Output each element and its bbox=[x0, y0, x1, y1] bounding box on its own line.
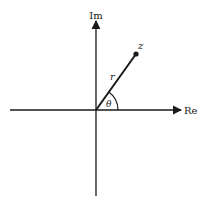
complex-plane-diagram: Im Re z r θ bbox=[0, 0, 205, 205]
angle-label: θ bbox=[106, 99, 112, 109]
imaginary-axis-label: Im bbox=[89, 10, 103, 21]
point-z bbox=[133, 51, 138, 56]
modulus-label: r bbox=[110, 71, 116, 82]
real-axis-label: Re bbox=[184, 105, 198, 116]
point-z-label: z bbox=[137, 40, 144, 51]
